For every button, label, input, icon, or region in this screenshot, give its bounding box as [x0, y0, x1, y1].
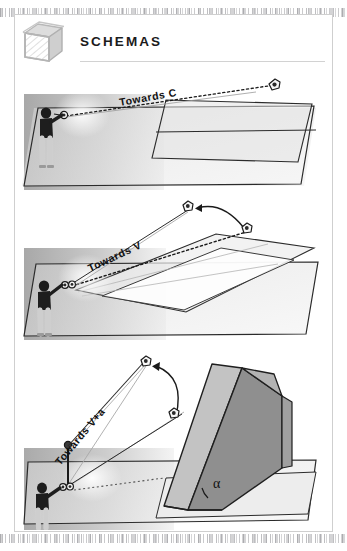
camera-station-icon: [242, 223, 252, 233]
camera-station-icon: [269, 79, 280, 90]
diagram-towards-v: Towards V: [16, 192, 331, 342]
camera-station-icon: [141, 356, 151, 366]
page-root: SCHEMAS: [0, 0, 347, 551]
hatched-box-icon: [18, 20, 66, 66]
camera-station-icon: [169, 408, 179, 418]
header-divider: [80, 61, 325, 62]
bottom-scan-texture: [0, 534, 347, 543]
diagram-towards-c: Towards C: [16, 66, 331, 194]
diagram-towards-v-plus-a: α Towards V+a: [16, 338, 331, 530]
header: SCHEMAS: [14, 20, 329, 68]
page-title: SCHEMAS: [80, 34, 162, 49]
camera-station-icon: [183, 201, 193, 211]
angle-alpha-label: α: [213, 476, 221, 491]
